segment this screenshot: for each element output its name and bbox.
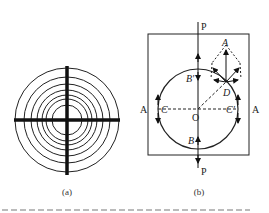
- label-b-prime: B': [186, 73, 195, 84]
- label-a-left: A: [140, 104, 148, 115]
- label-c-prime: C': [226, 104, 236, 115]
- label-b: B: [188, 135, 194, 146]
- caption-a: (a): [62, 187, 72, 197]
- label-c: C: [161, 104, 168, 115]
- radius-od: [198, 82, 226, 109]
- force-decomposition-at-d: [211, 45, 241, 82]
- label-p-bottom: P: [201, 166, 207, 177]
- figure-canvas: (a) P P: [0, 0, 269, 213]
- caption-b: (b): [194, 187, 205, 197]
- label-o: O: [192, 112, 199, 123]
- panel-b-stress-diagram: [148, 22, 249, 168]
- label-d: D: [222, 87, 231, 98]
- label-p-top: P: [201, 21, 207, 32]
- panel-a-concentric-rings: [14, 66, 120, 175]
- label-a-right: A: [252, 104, 260, 115]
- label-a-point: A: [221, 37, 229, 48]
